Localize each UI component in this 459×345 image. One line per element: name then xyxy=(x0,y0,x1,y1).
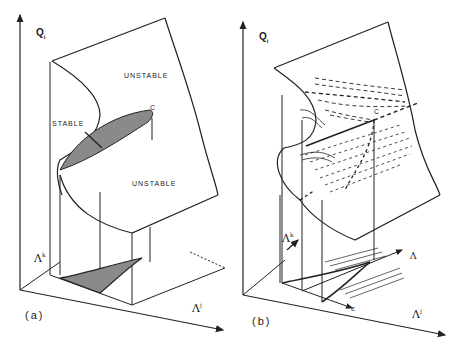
cusp-point-label-b: C xyxy=(374,108,380,115)
q-axis-label-b: Qi xyxy=(259,32,268,44)
cusp-catastrophe-figure xyxy=(0,0,459,345)
lambda-j-label-b: Λj xyxy=(412,308,422,320)
cusp-base-a xyxy=(60,258,142,293)
unstable-lower-label: UNSTABLE xyxy=(132,180,176,187)
q-axis-label-a: Qi xyxy=(36,28,45,40)
lambda-j-label-a: Λj xyxy=(192,302,202,314)
unstable-upper-label: UNSTABLE xyxy=(124,72,168,79)
cusp-point-label-a: C xyxy=(150,104,156,111)
panel-a-label: (a) xyxy=(25,310,44,321)
panel-b-diagram xyxy=(243,22,445,335)
panel-b-label: (b) xyxy=(252,316,271,327)
lambda-k-axis-b xyxy=(243,260,285,295)
control-lambda-label: Λ xyxy=(410,252,417,261)
stable-label: STABLE xyxy=(52,120,84,127)
control-epsilon-label: ε xyxy=(351,305,355,313)
panel-a-diagram xyxy=(20,15,225,330)
lambda-k-label-a: Λk xyxy=(34,252,46,264)
fold-region-a xyxy=(60,110,153,170)
lambda-k-label-b: Λk xyxy=(282,232,294,244)
